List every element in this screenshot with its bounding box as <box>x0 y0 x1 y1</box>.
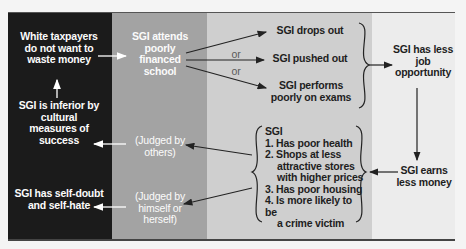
arrow-consequences-to-judged-self <box>184 188 252 204</box>
arrow-consequences-to-judged-others <box>186 145 252 155</box>
arrow-school-to-drops-out <box>186 32 266 53</box>
brace-consequences-right <box>356 126 366 222</box>
arrow-school-to-performs <box>186 66 266 88</box>
figure-caption-cutoff <box>30 242 230 249</box>
brace-consequences-left <box>252 126 262 222</box>
brace-outcomes <box>359 23 369 108</box>
arrows-layer <box>0 0 466 249</box>
